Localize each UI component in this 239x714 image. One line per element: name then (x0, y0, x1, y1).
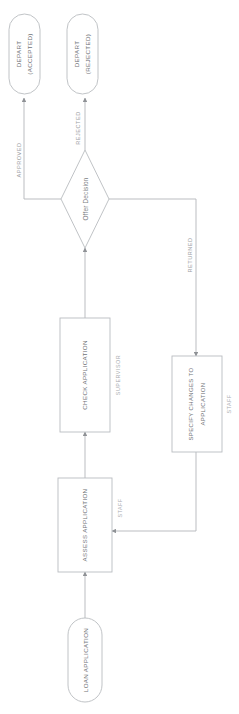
edge-label-rejected: REJECTED (75, 111, 81, 145)
node-depart-rejected[interactable]: DEPART (REJECTED) (67, 14, 98, 94)
node-label-offer-decision: Offer Decision (82, 177, 89, 220)
node-check-application[interactable]: CHECK APPLICATION SUPERVISOR (60, 318, 121, 432)
node-offer-decision[interactable]: Offer Decision (61, 150, 109, 248)
node-label-loan-application: LOAN APPLICATION (82, 628, 89, 692)
node-label-depart-accepted-line1: DEPART (15, 41, 22, 68)
node-label-depart-accepted-line2: (ACCEPTED) (26, 33, 33, 74)
role-label-supervisor: SUPERVISOR (115, 355, 121, 395)
node-depart-accepted[interactable]: DEPART (ACCEPTED) (9, 14, 40, 94)
flowchart-canvas: APPROVED REJECTED RETURNED DEPART (ACCEP… (0, 0, 239, 714)
node-label-assess-application: ASSESS APPLICATION (81, 489, 88, 562)
node-label-depart-rejected-line1: DEPART (73, 41, 80, 68)
node-label-specify-changes-line1: SPECIFY CHANGES TO (188, 368, 194, 441)
edge-rejected: REJECTED (75, 98, 85, 150)
edge-specify-to-assess (112, 452, 196, 531)
role-label-staff-assess: STAFF (117, 498, 123, 517)
edge-label-approved: APPROVED (16, 142, 22, 177)
edge-approved: APPROVED (16, 98, 61, 199)
node-assess-application[interactable]: ASSESS APPLICATION STAFF (58, 478, 123, 572)
node-loan-application[interactable]: LOAN APPLICATION (68, 618, 102, 702)
role-label-staff-specify: STAFF (226, 394, 232, 413)
node-label-depart-rejected-line2: (REJECTED) (84, 34, 91, 74)
edge-label-returned: RETURNED (187, 237, 193, 272)
node-label-specify-changes-line2: APPLICATION (200, 382, 206, 425)
node-specify-changes[interactable]: SPECIFY CHANGES TO APPLICATION STAFF (172, 356, 232, 452)
node-label-check-application: CHECK APPLICATION (81, 340, 88, 409)
edge-returned: RETURNED (109, 199, 196, 356)
